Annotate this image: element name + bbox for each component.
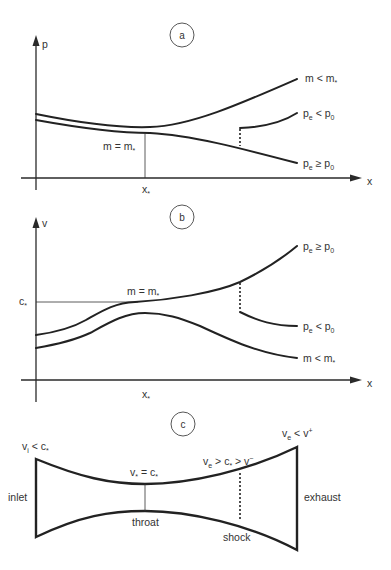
nozzle-outline [36,447,297,550]
curve-subsonic [36,79,297,127]
svg-text:b: b [179,212,185,223]
nozzle-flow-diagram: a p x x* m = m* m < m* pe < p0 pe ≥ p0 b [0,0,391,570]
curve-shock-branch [240,312,297,326]
exhaust-condition-label: ve < v+ [282,427,312,441]
c-star-tick-label: c* [19,295,27,309]
shock-label: shock [223,531,251,543]
throat-label: throat [132,516,159,528]
panel-b-badge: b [170,205,194,229]
panel-a-badge: a [170,23,194,47]
x-axis-label: x [367,175,373,187]
throat-condition-label: v* = c* [130,466,158,480]
inlet-condition-label: vi < c* [22,440,49,454]
curve-label-supersonic: pe ≥ p0 [303,240,334,254]
throat-critical-label: m = m* [103,140,135,154]
x-axis-arrow-icon [350,377,362,384]
curve-supersonic [36,246,297,335]
panel-b-velocity: b v x x* c* m = m* pe ≥ p0 pe < p0 m < m… [19,205,373,402]
inlet-label: inlet [8,491,27,503]
curve-shock-branch [240,113,297,128]
panel-a-pressure: a p x x* m = m* m < m* pe < p0 pe ≥ p0 [21,23,373,197]
x-star-tick-label: x* [142,183,150,197]
x-axis-label: x [367,377,373,389]
curve-label-shock-branch: pe < p0 [303,320,335,334]
x-star-tick-label: x* [142,388,150,402]
svg-text:c: c [181,419,186,430]
svg-text:a: a [179,30,185,41]
exhaust-label: exhaust [304,491,341,503]
y-axis-label: v [42,217,48,229]
panel-c-nozzle: c vi < c* inlet v* = c* throat ve > c* >… [8,412,341,550]
x-axis-arrow-icon [350,175,362,182]
curve-label-subsonic: m < m* [305,72,337,86]
y-axis-label: p [42,38,48,50]
throat-critical-label: m = m* [127,285,159,299]
y-axis-arrow-icon [33,217,40,228]
curve-label-supersonic: pe ≥ p0 [303,157,334,171]
curve-label-shock-branch: pe < p0 [303,107,335,121]
curve-label-subsonic: m < m* [303,352,335,366]
y-axis-arrow-icon [33,35,40,46]
panel-c-badge: c [171,412,195,436]
shock-condition-label: ve > c* > v− [203,455,253,469]
